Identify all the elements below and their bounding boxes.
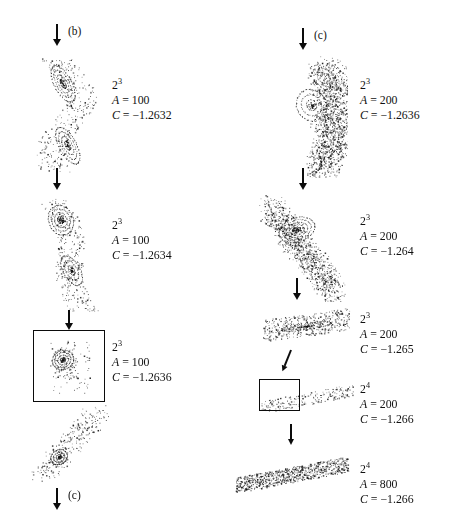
caption-right-5-power: 24 [360,462,414,477]
arrow-right-1-to-2 [296,168,310,190]
caption-right-5: 24 A = 800 C = −1.266 [360,462,414,508]
caption-left-1-c: C = −1.2632 [112,108,172,123]
caption-left-3-c: C = −1.2636 [112,370,172,385]
panel-right-3 [258,306,354,346]
arrow-down-to-left-panel-1 [50,24,64,46]
caption-left-1: 23 A = 100 C = −1.2632 [112,78,172,124]
arrow-left-1-to-2 [50,168,64,190]
caption-right-1: 23 A = 200 C = −1.2636 [360,78,420,124]
caption-right-3-power: 23 [360,312,414,327]
caption-right-3-c: C = −1.265 [360,342,414,357]
caption-right-3: 23 A = 200 C = −1.265 [360,312,414,358]
arrow-down-to-c-left [50,488,64,510]
magnification-box-right [259,379,300,411]
caption-left-3-a: A = 100 [112,355,172,370]
arrow-left-2-to-3 [62,310,76,330]
caption-right-1-c: C = −1.2636 [360,108,420,123]
panel-left-3 [34,331,102,399]
caption-right-4-c: C = −1.266 [360,412,414,427]
panel-right-1 [256,52,348,178]
caption-right-4: 24 A = 200 C = −1.266 [360,382,414,428]
panel-right-5 [232,452,352,498]
panel-tag-b: (b) [68,25,81,37]
figure-canvas: (b) 23 A = 100 C = −1.2632 23 A = 100 [0,0,455,525]
caption-left-2-a: A = 100 [112,233,172,248]
caption-right-5-a: A = 800 [360,477,414,492]
caption-left-1-a: A = 100 [112,93,172,108]
caption-right-2-a: A = 200 [360,229,414,244]
caption-right-2-c: C = −1.264 [360,244,414,259]
caption-left-3: 23 A = 100 C = −1.2636 [112,340,172,386]
caption-left-2: 23 A = 100 C = −1.2634 [112,218,172,264]
caption-right-1-a: A = 200 [360,93,420,108]
caption-right-3-a: A = 200 [360,327,414,342]
panel-left-4 [26,404,112,484]
caption-left-2-power: 23 [112,218,172,233]
panel-left-1 [26,52,104,178]
arrow-right-2-to-3 [290,278,304,300]
panel-left-2 [26,192,108,318]
arrow-down-to-right-panel-1 [296,28,310,50]
caption-right-5-c: C = −1.266 [360,492,414,507]
caption-right-2: 23 A = 200 C = −1.264 [360,214,414,260]
caption-right-2-power: 23 [360,214,414,229]
caption-left-1-power: 23 [112,78,172,93]
caption-right-4-a: A = 200 [360,397,414,412]
caption-left-2-c: C = −1.2634 [112,248,172,263]
caption-right-4-power: 24 [360,382,414,397]
panel-tag-c-bottom: (c) [68,489,81,501]
panel-tag-c-top: (c) [314,29,327,41]
arrow-right-3-to-4 [276,347,298,374]
arrow-right-4-to-5 [284,424,298,446]
caption-left-3-power: 23 [112,340,172,355]
caption-right-1-power: 23 [360,78,420,93]
